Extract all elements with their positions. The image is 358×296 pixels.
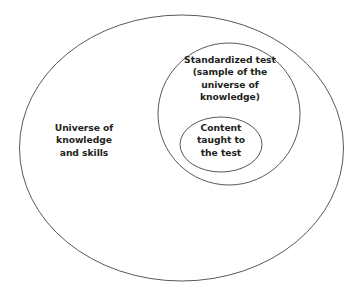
content-taught-label: Content taught to the test — [181, 122, 261, 159]
universe-of-knowledge-label: Universe of knowledge and skills — [34, 122, 134, 159]
standardized-test-label: Standardized test (sample of the univers… — [174, 54, 286, 104]
